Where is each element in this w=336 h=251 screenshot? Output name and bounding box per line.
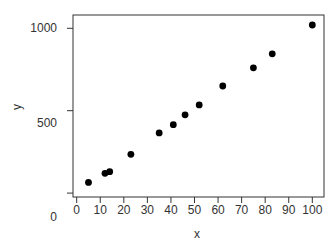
data-point (85, 179, 92, 186)
x-tick-label: 40 (164, 203, 178, 217)
data-point (269, 50, 276, 57)
data-point (309, 22, 316, 29)
data-point (127, 151, 134, 158)
x-tick-label: 60 (211, 203, 225, 217)
data-point (250, 64, 257, 71)
x-tick-label: 30 (141, 203, 155, 217)
x-tick-label: 50 (188, 203, 202, 217)
x-tick-label: 100 (302, 203, 322, 217)
data-point (196, 102, 203, 109)
data-point (106, 168, 113, 175)
x-tick-label: 0 (73, 203, 80, 217)
data-point (182, 111, 189, 118)
y-tick-label: 500 (37, 116, 57, 130)
data-point (156, 130, 163, 137)
y-tick-label: 0 (50, 210, 57, 224)
x-tick-label: 20 (117, 203, 131, 217)
data-point (170, 121, 177, 128)
scatter-chart: 0102030405060708090100 05001000 x y (0, 0, 336, 251)
data-points (85, 22, 316, 186)
y-axis-label: y (10, 104, 24, 110)
x-axis-label: x (194, 227, 200, 241)
y-tick-label: 1000 (30, 21, 57, 35)
x-axis: 0102030405060708090100 (73, 197, 322, 217)
data-point (219, 83, 226, 90)
x-tick-label: 90 (282, 203, 296, 217)
y-axis: 05001000 (30, 21, 73, 224)
x-tick-label: 10 (94, 203, 108, 217)
x-tick-label: 70 (235, 203, 249, 217)
x-tick-label: 80 (259, 203, 273, 217)
